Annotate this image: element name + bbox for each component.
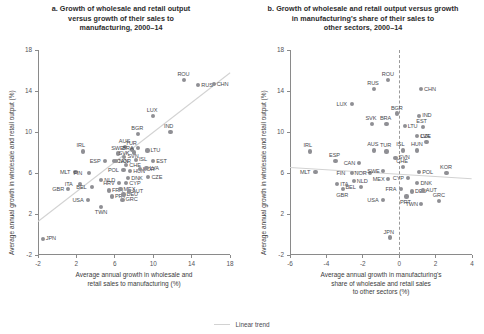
data-point: [386, 177, 390, 181]
panel-b-title: b. Growth of wholesale and retail output…: [250, 4, 476, 33]
y-tick: [287, 214, 290, 215]
y-tick: [287, 132, 290, 133]
point-label: CHN: [424, 86, 436, 92]
title-line: manufacturing, 2000–14: [8, 23, 234, 33]
point-label: KOR: [440, 164, 452, 170]
data-point: [399, 187, 403, 191]
point-label: FRA: [386, 186, 397, 192]
title-line: b. Growth of wholesale and retail output…: [250, 4, 476, 14]
data-point: [145, 148, 149, 152]
data-point: [308, 149, 312, 153]
data-point: [151, 159, 155, 163]
point-label: IND: [422, 112, 431, 118]
x-axis-line: [290, 254, 472, 255]
point-label: IRL: [77, 142, 85, 148]
y-tick-label: 18: [14, 46, 32, 53]
data-point: [81, 149, 85, 153]
figure-panels: a. Growth of wholesale and retail output…: [0, 0, 484, 300]
x-tick-label: 2: [65, 260, 87, 267]
point-label: BEL: [345, 184, 355, 190]
y-tick-label: 18: [266, 46, 284, 53]
point-label: LTU: [408, 123, 418, 129]
data-point: [124, 163, 128, 167]
data-point: [127, 189, 131, 193]
x-tick: [114, 255, 115, 258]
legend-label-linear-trend: Linear trend: [235, 321, 269, 328]
point-label: CAN: [344, 160, 356, 166]
x-tick-label: 6: [104, 260, 126, 267]
chart-legend: Linear trend: [0, 321, 484, 328]
point-label: BRA: [380, 115, 391, 121]
point-label: FIN: [336, 170, 345, 176]
x-tick: [38, 255, 39, 258]
y-tick-label: 14: [14, 87, 32, 94]
data-point: [136, 146, 140, 150]
y-tick: [287, 50, 290, 51]
point-label: ISL: [396, 141, 404, 147]
x-tick: [326, 255, 327, 258]
y-tick: [287, 173, 290, 174]
y-axis-line: [38, 50, 39, 255]
data-point: [417, 170, 421, 174]
data-point: [388, 235, 392, 239]
data-point: [401, 148, 405, 152]
point-label: RUS: [367, 80, 379, 86]
point-label: ESP: [90, 158, 101, 164]
data-point: [128, 169, 132, 173]
point-label: LUX: [147, 107, 158, 113]
x-tick: [76, 255, 77, 258]
data-point: [341, 187, 345, 191]
y-tick-label: 14: [266, 87, 284, 94]
point-label: HUN: [411, 141, 423, 147]
y-tick: [35, 132, 38, 133]
point-label: GBR: [52, 186, 64, 192]
y-tick-label: 6: [266, 169, 284, 176]
y-tick-label: 10: [266, 128, 284, 135]
data-point: [421, 125, 425, 129]
data-point: [415, 134, 419, 138]
point-label: LUX: [336, 101, 347, 107]
point-label: BGR: [391, 105, 403, 111]
point-label: ISL: [139, 156, 147, 162]
point-label: LVA: [149, 165, 158, 171]
point-label: AUT: [426, 187, 437, 193]
x-tick: [191, 255, 192, 258]
point-label: MLT: [60, 169, 70, 175]
y-tick-label: -2: [266, 251, 284, 258]
data-point: [350, 171, 354, 175]
point-label: POL: [108, 167, 119, 173]
point-label: EST: [156, 158, 167, 164]
data-point: [384, 149, 388, 153]
data-point: [404, 194, 408, 198]
point-label: SVN: [399, 154, 410, 160]
point-label: POL: [422, 169, 433, 175]
x-tick: [153, 255, 154, 258]
point-label: FIN: [73, 170, 82, 176]
data-point: [120, 198, 124, 202]
data-point: [103, 159, 107, 163]
data-point: [372, 148, 376, 152]
point-label: SVK: [119, 150, 130, 156]
chart-panel-a: a. Growth of wholesale and retail output…: [0, 0, 242, 300]
point-label: IND: [164, 123, 173, 129]
data-point: [114, 159, 118, 163]
point-label: MEX: [373, 176, 385, 182]
data-point: [415, 148, 419, 152]
point-label: EST: [416, 118, 427, 124]
point-label: ESP: [329, 152, 340, 158]
data-point: [41, 237, 45, 241]
data-point: [144, 166, 148, 170]
y-tick-label: 2: [14, 210, 32, 217]
point-label: ROU: [382, 71, 394, 77]
data-point: [384, 122, 388, 126]
data-point: [168, 130, 172, 134]
point-label: IRL: [304, 142, 312, 148]
panel-a-plot-area: -226101418-226101418JPNGBRUSATWNITAMLTFI…: [38, 50, 230, 255]
point-label: ITA: [65, 181, 73, 187]
x-tick-label: 0: [388, 260, 410, 267]
panel-a-title: a. Growth of wholesale and retail output…: [8, 4, 234, 33]
point-label: SWE: [367, 168, 379, 174]
data-point: [124, 181, 128, 185]
point-label: NOR: [355, 170, 367, 176]
x-axis-title-line: share of wholesale and retail sales: [280, 280, 482, 289]
